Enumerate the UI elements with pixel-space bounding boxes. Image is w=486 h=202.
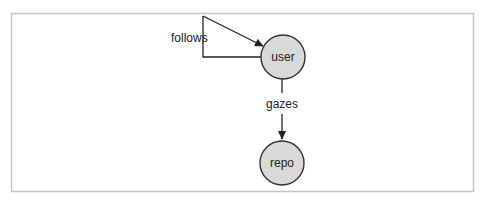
diagram-frame (12, 14, 474, 192)
edge-gazes: gazes (266, 79, 298, 139)
edge-follows: follows (171, 16, 263, 57)
node-user-label: user (271, 50, 294, 64)
edge-label-gazes: gazes (266, 97, 298, 111)
graph-diagram: follows gazes user repo (0, 0, 486, 202)
self-loop-line (203, 16, 261, 57)
node-repo-label: repo (270, 156, 294, 170)
node-user: user (261, 35, 305, 79)
self-loop-arrow-line (203, 16, 263, 46)
node-repo: repo (260, 141, 304, 185)
edge-label-follows: follows (171, 31, 208, 45)
